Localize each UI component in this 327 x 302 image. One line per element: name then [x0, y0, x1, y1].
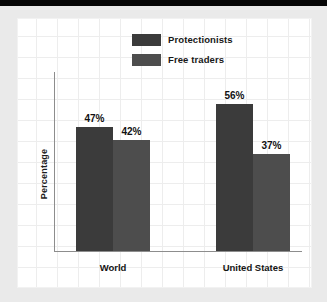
y-axis-line	[54, 72, 55, 252]
bar-value-world-free-traders: 42%	[121, 126, 141, 137]
bar-world-protectionists: 47%	[76, 127, 113, 251]
plot-area: Percentage 47% 42% 56% 37% World United …	[18, 19, 313, 289]
bar-value-united-states-free-traders: 37%	[261, 140, 281, 151]
bar-united-states-free-traders: 37%	[253, 154, 290, 251]
x-axis-group-label-world: World	[76, 262, 150, 273]
bar-united-states-protectionists: 56%	[216, 104, 253, 251]
x-axis-group-label-united-states: United States	[216, 262, 290, 273]
y-axis-title: Percentage	[39, 134, 49, 214]
x-axis-line	[54, 251, 302, 252]
bar-value-united-states-protectionists: 56%	[224, 90, 244, 101]
bar-value-world-protectionists: 47%	[84, 113, 104, 124]
bar-world-free-traders: 42%	[113, 140, 150, 251]
chart-card: Protectionists Free traders Percentage 4…	[17, 18, 312, 288]
